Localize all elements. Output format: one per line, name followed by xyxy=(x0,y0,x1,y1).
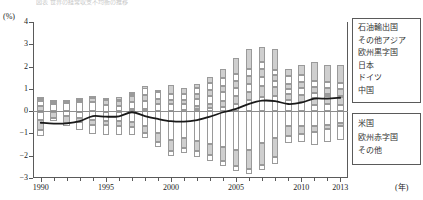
y-tick xyxy=(29,178,33,179)
line-series-overlay xyxy=(33,22,348,178)
legend-item-surplus-3: 日本 xyxy=(358,60,416,73)
legend-deficit-countries: 米国欧州赤字国その他 xyxy=(352,113,421,165)
legend-item-deficit-0: 米国 xyxy=(358,117,416,131)
y-tick-label: −2 xyxy=(19,152,28,160)
line-series-path xyxy=(41,98,340,124)
legend-item-surplus-0: 石油輸出国 xyxy=(358,22,416,35)
legend-item-surplus-5: 中国 xyxy=(358,85,416,98)
legend-item-deficit-2: その他 xyxy=(358,144,416,158)
legend-item-surplus-4: ドイツ xyxy=(358,72,416,85)
x-tick-label: 2005 xyxy=(228,184,244,192)
y-tick-label: 0 xyxy=(24,107,28,115)
y-tick-label: −1 xyxy=(19,129,28,137)
plot-area: 43210−1−2−3 199019952000200520102013 xyxy=(33,22,348,178)
y-axis-unit-label: (%) xyxy=(3,13,15,21)
y-tick-label: 1 xyxy=(24,85,28,93)
legend-item-deficit-1: 欧州赤字国 xyxy=(358,131,416,145)
y-tick-label: −3 xyxy=(19,174,28,182)
x-tick-label: 2010 xyxy=(293,184,309,192)
x-tick-label: 1990 xyxy=(33,184,49,192)
y-tick-label: 2 xyxy=(24,63,28,71)
legend-surplus-countries: 石油輸出国その他アジア欧州黒字国日本ドイツ中国 xyxy=(352,18,421,103)
top-clipped-caption: 図表 世界の経常収支不均衡の推移 xyxy=(36,0,336,6)
legend-item-surplus-1: その他アジア xyxy=(358,35,416,48)
y-tick-label: 4 xyxy=(24,18,28,26)
chart-figure: 図表 世界の経常収支不均衡の推移 (%) (年) 43210−1−2−3 199… xyxy=(0,0,423,200)
x-tick-label: 1995 xyxy=(98,184,114,192)
x-tick-label: 2013 xyxy=(332,184,348,192)
x-axis-unit-label: (年) xyxy=(395,184,408,192)
y-tick-label: 3 xyxy=(24,40,28,48)
x-tick-label: 2000 xyxy=(163,184,179,192)
legend-item-surplus-2: 欧州黒字国 xyxy=(358,47,416,60)
